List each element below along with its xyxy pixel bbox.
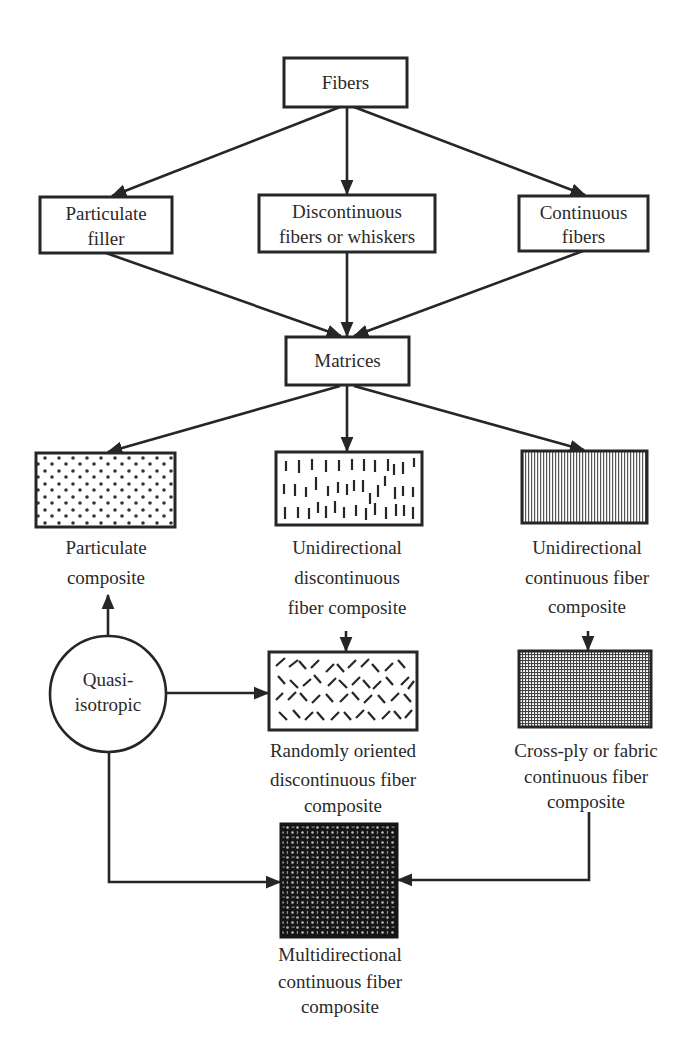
particulate-composite-line2: composite	[67, 567, 145, 588]
matrices-label: Matrices	[314, 350, 380, 371]
multidirectional-line3: composite	[301, 996, 379, 1017]
node-particulate-composite: Particulate composite	[36, 453, 175, 588]
node-multidirectional: Multidirectional continuous fiber compos…	[278, 824, 403, 1017]
unidirectional-continuous-line3: composite	[548, 596, 626, 617]
node-randomly-oriented: Randomly oriented discontinuous fiber co…	[269, 652, 417, 816]
unidirectional-continuous-line1: Unidirectional	[532, 537, 642, 558]
dots-pattern-icon	[36, 453, 175, 527]
cross-ply-line2: continuous fiber	[524, 766, 649, 787]
edge-crossply-to-multidirectional	[398, 812, 589, 880]
edge-particulate-filler-to-matrices	[106, 253, 341, 336]
randomly-oriented-line1: Randomly oriented	[270, 740, 417, 761]
node-unidirectional-continuous: Unidirectional continuous fiber composit…	[522, 451, 650, 617]
edge-fibers-to-particulate-filler	[112, 107, 340, 196]
continuous-fibers-line2: fibers	[562, 226, 605, 247]
unidirectional-continuous-line2: continuous fiber	[525, 567, 650, 588]
continuous-fibers-line1: Continuous	[540, 202, 628, 223]
node-unidirectional-discontinuous: Unidirectional discontinuous fiber compo…	[276, 452, 422, 618]
node-cross-ply: Cross-ply or fabric continuous fiber com…	[514, 651, 658, 812]
particulate-composite-line1: Particulate	[65, 537, 146, 558]
cross-ply-line3: composite	[547, 791, 625, 812]
particulate-filler-line2: filler	[88, 228, 126, 249]
node-discontinuous-fibers: Discontinuous fibers or whiskers	[259, 195, 435, 252]
unidirectional-discontinuous-line1: Unidirectional	[292, 537, 402, 558]
node-fibers: Fibers	[284, 58, 407, 107]
grid-pattern-icon	[519, 651, 651, 727]
dense-weave-pattern-icon	[281, 824, 397, 937]
edge-continuous-to-matrices	[354, 251, 583, 336]
edge-matrices-to-particulate-composite	[108, 386, 340, 452]
randomly-oriented-line2: discontinuous fiber	[270, 769, 417, 790]
multidirectional-line1: Multidirectional	[278, 944, 401, 965]
particulate-filler-line1: Particulate	[65, 203, 146, 224]
fibers-label: Fibers	[322, 72, 370, 93]
cross-ply-line1: Cross-ply or fabric	[514, 740, 658, 761]
unidirectional-discontinuous-line2: discontinuous	[294, 567, 400, 588]
vertical-lines-pattern-icon	[522, 451, 647, 523]
discontinuous-fibers-line2: fibers or whiskers	[279, 226, 415, 247]
node-matrices: Matrices	[286, 337, 409, 385]
discontinuous-fibers-line1: Discontinuous	[292, 201, 402, 222]
node-continuous-fibers: Continuous fibers	[519, 196, 648, 251]
multidirectional-line2: continuous fiber	[278, 971, 403, 992]
quasi-isotropic-line2: isotropic	[75, 694, 142, 715]
node-particulate-filler: Particulate filler	[40, 197, 172, 253]
composites-classification-diagram: Fibers Particulate filler Discontinuous …	[0, 0, 697, 1056]
quasi-isotropic-line1: Quasi-	[83, 669, 134, 690]
node-quasi-isotropic: Quasi- isotropic	[50, 636, 166, 752]
unidirectional-discontinuous-line3: fiber composite	[288, 597, 407, 618]
edge-fibers-to-continuous	[354, 107, 585, 195]
randomly-oriented-line3: composite	[304, 795, 382, 816]
edge-quasi-to-multidirectional	[109, 753, 280, 882]
edge-matrices-to-unidirectional-continuous	[354, 386, 584, 450]
